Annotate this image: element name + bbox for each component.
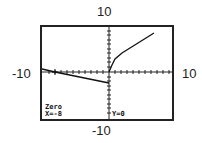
y-min-label: -10: [92, 123, 111, 138]
left-line-segment: [42, 69, 109, 83]
y-readout: Y=0: [112, 111, 125, 118]
y-max-label: 10: [97, 4, 111, 19]
right-curve-segment: [109, 33, 154, 72]
x-min-label: -10: [12, 66, 31, 81]
trace-cursor-icon: [52, 69, 58, 75]
x-readout: X=-8: [45, 111, 62, 118]
x-max-label: 10: [182, 66, 196, 81]
calculator-graph-screen: Zero X=-8 Y=0: [40, 25, 174, 121]
